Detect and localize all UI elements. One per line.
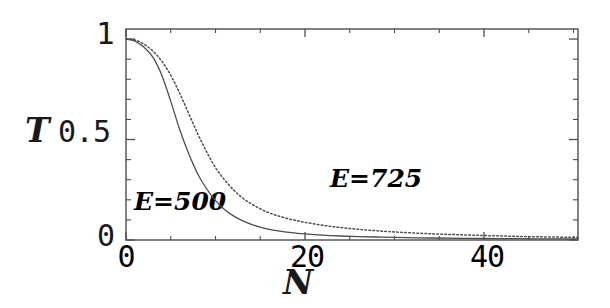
- figure-plot: T 1 0.5 0 0 20 40 N E=500 E=725: [0, 0, 610, 308]
- plot-frame: [126, 29, 578, 240]
- plot-canvas: [0, 0, 610, 308]
- series-line-e500: [126, 39, 578, 239]
- axis-ticks: [126, 29, 578, 240]
- series-line-e725: [126, 39, 578, 237]
